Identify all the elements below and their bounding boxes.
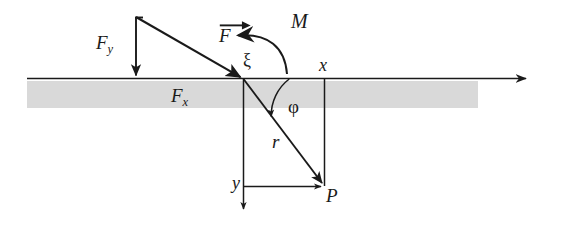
phi-label: φ — [288, 97, 299, 116]
gray-band — [27, 81, 478, 108]
y-axis-label: y — [232, 174, 240, 192]
diagram-canvas — [0, 0, 562, 225]
force-x-subscript: x — [183, 95, 189, 109]
force-y-subscript: y — [108, 42, 114, 56]
force-moment-diagram: F Fy Fx M ξ φ r x y P — [0, 0, 562, 225]
force-vector-label: F — [219, 26, 231, 45]
vector-overarrow-icon — [219, 20, 251, 30]
force-x-label: Fx — [171, 86, 188, 108]
point-p-label: P — [326, 186, 338, 205]
x-axis-label: x — [319, 56, 327, 74]
force-y-label: Fy — [96, 33, 113, 55]
xi-label: ξ — [243, 51, 251, 69]
moment-label: M — [291, 11, 308, 31]
radius-label: r — [272, 132, 279, 151]
